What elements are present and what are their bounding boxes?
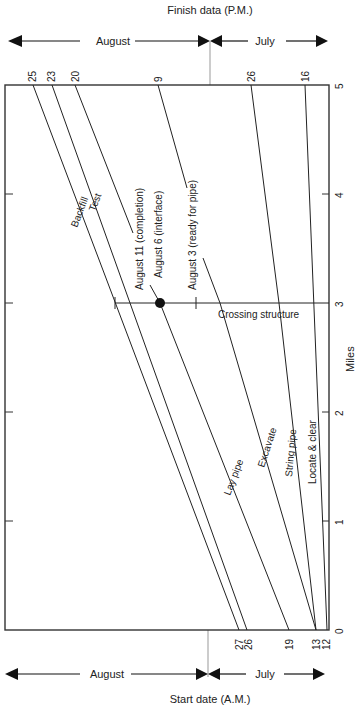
top-august-label: August bbox=[96, 35, 130, 47]
finish-label-23: 23 bbox=[46, 70, 57, 82]
backfill-line bbox=[33, 85, 239, 630]
string-pipe-label: String pipe bbox=[283, 428, 298, 477]
backfill-label: Backfill bbox=[69, 195, 91, 229]
start-label-26: 26 bbox=[243, 638, 254, 650]
arrow-left-icon bbox=[208, 668, 220, 680]
mile-tick-3: 3 bbox=[334, 301, 345, 307]
finish-label-9: 9 bbox=[153, 76, 164, 82]
pipeline-schedule-chart: Finish data (P.M.) August July 25 23 20 … bbox=[0, 0, 364, 708]
aug11-annotation: August 11 (completion) bbox=[134, 188, 145, 290]
excavate-label: Excavate bbox=[255, 426, 278, 469]
mile-tick-0: 0 bbox=[334, 628, 345, 634]
test-line bbox=[52, 85, 247, 630]
finish-label-25: 25 bbox=[27, 70, 38, 82]
interface-dot-icon bbox=[155, 298, 165, 308]
finish-label-16: 16 bbox=[300, 70, 311, 82]
arrow-left-icon bbox=[8, 35, 22, 47]
locate-clear-line bbox=[305, 85, 327, 630]
crossing-structure-label: Crossing structure bbox=[218, 309, 300, 320]
top-july-label: July bbox=[255, 35, 275, 47]
mile-tick-5: 5 bbox=[334, 83, 345, 89]
bottom-month-arrows: August July bbox=[5, 668, 325, 680]
mile-tick-1: 1 bbox=[334, 519, 345, 525]
mile-tick-2: 2 bbox=[334, 410, 345, 416]
arrow-right-icon bbox=[198, 35, 210, 47]
lay-pipe-label: Lay pipe bbox=[222, 457, 246, 497]
excavate-after-line bbox=[158, 85, 187, 188]
miles-axis-label: Miles bbox=[344, 346, 356, 372]
start-label-19: 19 bbox=[284, 638, 295, 650]
arrow-left-icon bbox=[5, 668, 18, 680]
arrow-right-icon bbox=[316, 35, 328, 47]
chart-frame bbox=[5, 85, 329, 630]
start-title: Start date (A.M.) bbox=[170, 693, 251, 705]
bottom-august-label: August bbox=[90, 668, 124, 680]
arrow-right-icon bbox=[196, 668, 208, 680]
top-month-arrows: August July bbox=[8, 35, 328, 47]
arrow-left-icon bbox=[210, 35, 222, 47]
test-label: Test bbox=[87, 191, 104, 212]
arrow-right-icon bbox=[313, 668, 325, 680]
finish-label-26: 26 bbox=[246, 70, 257, 82]
aug3-annotation: August 3 (ready for pipe) bbox=[187, 180, 198, 290]
bottom-july-label: July bbox=[255, 668, 275, 680]
locate-clear-label: Locate & clear bbox=[307, 419, 318, 484]
finish-title: Finish data (P.M.) bbox=[167, 4, 252, 16]
finish-label-20: 20 bbox=[70, 70, 81, 82]
aug6-annotation: August 6 (interface) bbox=[153, 191, 164, 278]
string-pipe-line bbox=[251, 85, 316, 630]
start-label-12: 12 bbox=[321, 638, 332, 650]
mile-tick-4: 4 bbox=[334, 192, 345, 198]
